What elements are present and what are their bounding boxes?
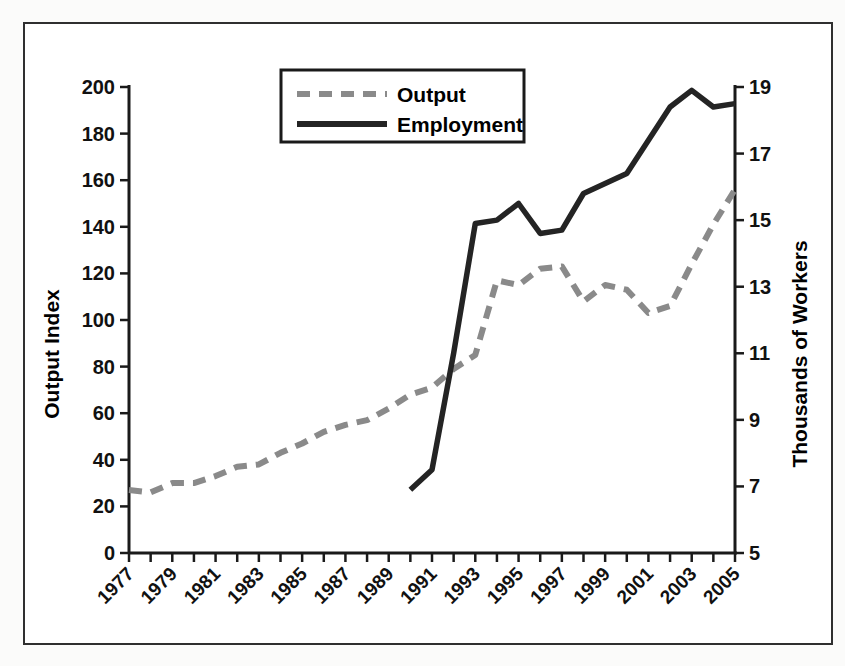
left-tick-label: 20 xyxy=(93,495,115,517)
x-tick-label: 1997 xyxy=(526,563,571,608)
left-axis-title: Output Index xyxy=(40,289,63,419)
x-tick-label: 1979 xyxy=(136,563,181,608)
series-line-employment xyxy=(410,90,735,489)
right-tick-label: 7 xyxy=(749,475,760,497)
right-tick-label: 13 xyxy=(749,276,771,298)
x-tick-label: 1983 xyxy=(223,563,268,608)
x-tick-label: 1993 xyxy=(439,563,484,608)
right-tick-label: 15 xyxy=(749,209,771,231)
left-tick-label: 200 xyxy=(82,76,115,98)
left-tick-label: 80 xyxy=(93,356,115,378)
left-tick-label: 0 xyxy=(104,542,115,564)
x-axis-ticks: 1977197919811983198519871989199119931995… xyxy=(93,553,744,608)
x-tick-label: 1989 xyxy=(353,563,398,608)
line-chart: Output Index Thousands of Workers 020406… xyxy=(25,24,831,643)
left-tick-label: 160 xyxy=(82,169,115,191)
x-tick-label: 2005 xyxy=(699,563,744,608)
left-axis-ticks: 020406080100120140160180200 xyxy=(82,76,129,564)
left-tick-label: 120 xyxy=(82,262,115,284)
x-tick-label: 1977 xyxy=(93,563,138,608)
chart-page: Output Index Thousands of Workers 020406… xyxy=(0,0,845,666)
right-tick-label: 9 xyxy=(749,409,760,431)
x-tick-label: 1981 xyxy=(180,563,225,608)
x-tick-label: 1995 xyxy=(483,563,528,608)
left-tick-label: 140 xyxy=(82,216,115,238)
x-tick-label: 1991 xyxy=(396,563,441,608)
x-tick-label: 1985 xyxy=(266,563,311,608)
series-line-output xyxy=(129,190,735,493)
right-tick-label: 5 xyxy=(749,542,760,564)
left-tick-label: 60 xyxy=(93,402,115,424)
x-tick-label: 2001 xyxy=(613,563,658,608)
left-tick-label: 40 xyxy=(93,449,115,471)
right-tick-label: 11 xyxy=(749,342,770,364)
right-axis-ticks: 5791113151719 xyxy=(735,76,771,564)
right-tick-label: 17 xyxy=(749,143,771,165)
left-tick-label: 100 xyxy=(82,309,115,331)
x-tick-label: 1987 xyxy=(310,563,355,608)
legend-label-output: Output xyxy=(397,83,466,106)
legend-label-employment: Employment xyxy=(397,113,523,136)
right-axis-title: Thousands of Workers xyxy=(788,240,811,467)
chart-legend: Output Employment xyxy=(281,70,524,142)
chart-frame: Output Index Thousands of Workers 020406… xyxy=(23,22,833,645)
x-tick-label: 2003 xyxy=(656,563,701,608)
x-tick-label: 1999 xyxy=(569,563,614,608)
left-tick-label: 180 xyxy=(82,123,115,145)
right-tick-label: 19 xyxy=(749,76,771,98)
